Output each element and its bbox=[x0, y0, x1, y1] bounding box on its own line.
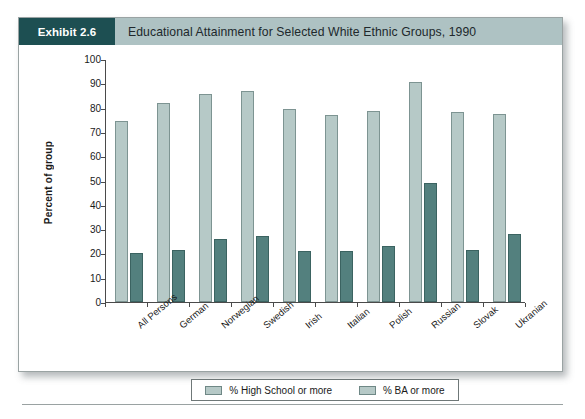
bar-high-school bbox=[409, 82, 422, 302]
y-tick-label: 20 bbox=[71, 249, 101, 259]
y-tick-label: 40 bbox=[71, 201, 101, 211]
bar-ba bbox=[298, 251, 311, 302]
y-tick-label: 60 bbox=[71, 152, 101, 162]
x-tick-mark bbox=[441, 303, 442, 307]
bar-ba bbox=[256, 236, 269, 302]
bar-high-school bbox=[199, 94, 212, 302]
x-tick-mark bbox=[525, 303, 526, 307]
y-tick-mark bbox=[101, 60, 105, 61]
y-tick-label: 80 bbox=[71, 104, 101, 114]
y-tick-mark bbox=[101, 230, 105, 231]
x-tick-mark bbox=[147, 303, 148, 307]
x-tick-mark bbox=[483, 303, 484, 307]
x-tick-mark bbox=[231, 303, 232, 307]
bar-ba bbox=[340, 251, 353, 302]
bar-ba bbox=[382, 246, 395, 302]
y-tick-mark bbox=[101, 109, 105, 110]
y-tick-label: 30 bbox=[71, 225, 101, 235]
bar-high-school bbox=[451, 112, 464, 302]
bar-ba bbox=[424, 183, 437, 302]
x-axis-category-label: Slovak bbox=[471, 304, 500, 331]
y-tick-label: 90 bbox=[71, 79, 101, 89]
x-tick-mark bbox=[105, 303, 106, 307]
bar-high-school bbox=[493, 114, 506, 302]
x-axis-category-label: German bbox=[177, 300, 210, 330]
exhibit-header: Exhibit 2.6 Educational Attainment for S… bbox=[19, 18, 562, 45]
legend-swatch-icon-high-school bbox=[205, 386, 222, 395]
y-tick-mark bbox=[101, 84, 105, 85]
x-axis-category-label: Polish bbox=[387, 305, 414, 330]
y-axis-label: Percent of group bbox=[43, 141, 57, 224]
bar-ba bbox=[508, 234, 521, 302]
chart-legend: % High School or more % BA or more bbox=[191, 379, 459, 401]
x-tick-mark bbox=[189, 303, 190, 307]
exhibit-badge: Exhibit 2.6 bbox=[19, 18, 115, 45]
bar-high-school bbox=[157, 103, 170, 302]
bar-high-school bbox=[241, 91, 254, 302]
x-axis-category-label: Swedish bbox=[261, 299, 296, 331]
exhibit-title: Educational Attainment for Selected Whit… bbox=[115, 18, 562, 45]
x-tick-mark bbox=[399, 303, 400, 307]
bar-high-school bbox=[283, 109, 296, 302]
chart-area: Percent of group 1009080706050403020100 … bbox=[19, 45, 562, 373]
bar-high-school bbox=[367, 111, 380, 302]
x-tick-mark bbox=[273, 303, 274, 307]
legend-label-high-school: % High School or more bbox=[229, 385, 332, 396]
y-tick-label: 0 bbox=[71, 298, 101, 308]
bar-high-school bbox=[115, 121, 128, 302]
y-tick-mark bbox=[101, 279, 105, 280]
x-tick-mark bbox=[357, 303, 358, 307]
x-axis-category-label: Russian bbox=[429, 300, 462, 330]
y-tick-mark bbox=[101, 206, 105, 207]
legend-entry-ba: % BA or more bbox=[359, 385, 445, 396]
x-axis-category-label: Irish bbox=[303, 310, 324, 330]
legend-swatch-icon-ba bbox=[359, 386, 376, 395]
bar-ba bbox=[214, 239, 227, 302]
legend-label-ba: % BA or more bbox=[383, 385, 445, 396]
y-tick-label: 10 bbox=[71, 274, 101, 284]
y-tick-mark bbox=[101, 182, 105, 183]
y-tick-label: 50 bbox=[71, 177, 101, 187]
page-divider-rule bbox=[22, 404, 563, 405]
y-tick-mark bbox=[101, 133, 105, 134]
exhibit-panel: Exhibit 2.6 Educational Attainment for S… bbox=[18, 17, 563, 372]
plot-area: 1009080706050403020100 All PersonsGerman… bbox=[105, 60, 525, 303]
y-tick-mark bbox=[101, 254, 105, 255]
x-axis-category-label: Italian bbox=[345, 306, 371, 331]
x-tick-mark bbox=[315, 303, 316, 307]
bar-ba bbox=[466, 250, 479, 302]
bar-high-school bbox=[325, 115, 338, 302]
y-tick-label: 70 bbox=[71, 128, 101, 138]
y-tick-label: 100 bbox=[71, 55, 101, 65]
legend-entry-high-school: % High School or more bbox=[205, 385, 332, 396]
y-tick-mark bbox=[101, 157, 105, 158]
y-axis-line bbox=[105, 60, 106, 303]
bar-ba bbox=[130, 253, 143, 302]
